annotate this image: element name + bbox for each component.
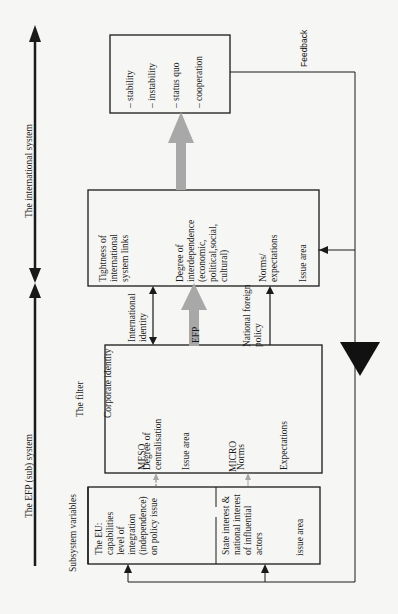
outcome-stability: – stability <box>125 70 136 108</box>
state-interest-text: State interest & national interest of in… <box>221 494 265 555</box>
the-filter-label: The filter <box>75 381 86 417</box>
filter-issue-area-text: Issue area <box>181 432 192 470</box>
intl-norms-expectations-text: Norms/ expectations <box>258 235 280 282</box>
state-issue-area-text: issue area <box>295 519 306 556</box>
outcome-cooperation: – cooperation <box>194 56 205 108</box>
eu-capabilities-text: The EU: capabilities level of integratio… <box>94 496 160 555</box>
efp-system-label: The EFP (sub) system <box>24 434 35 518</box>
filter-norms-text: Norms <box>236 444 247 470</box>
degree-centralisation-text: Degree of centralisation <box>142 419 164 470</box>
degree-interdependence-text: Degree of interdependence (economic, pol… <box>175 220 230 282</box>
outcome-status-quo: – status quo <box>171 63 182 108</box>
tightness-links-text: Tightness of international system links <box>98 234 131 282</box>
efp-system-axis <box>29 283 41 566</box>
outcome-instability: – instability <box>147 63 158 108</box>
national-foreign-policy-label: National foreign policy <box>242 284 264 347</box>
filter-expectations-text: Expectations <box>279 421 290 470</box>
subsystem-variables-label: Subsystem variables <box>68 494 79 572</box>
international-system-label: The international system <box>24 124 35 218</box>
international-identity-label: International identity <box>127 293 149 342</box>
feedback-label: Feedback <box>299 30 310 67</box>
intl-issue-area-text: Issue area <box>298 244 309 282</box>
corporate-identity-label: Corporate identity <box>103 349 114 418</box>
efp-label: EFP <box>191 327 202 343</box>
